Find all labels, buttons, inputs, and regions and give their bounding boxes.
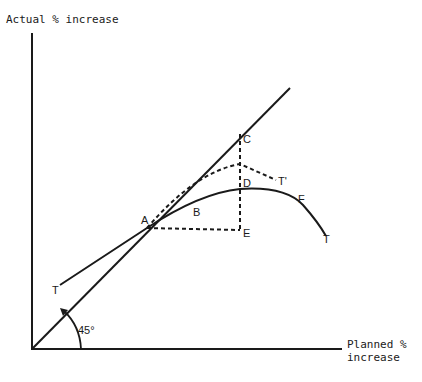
- point-label-F: F: [298, 193, 305, 205]
- diagram-canvas: Actual % increase Planned % increase A B…: [0, 0, 422, 382]
- point-label-A: A: [141, 214, 149, 226]
- point-label-C: C: [243, 133, 251, 145]
- point-label-D: D: [243, 177, 251, 189]
- dashed-horizontal-AE: [147, 228, 240, 230]
- diagram-svg: Actual % increase Planned % increase A B…: [0, 0, 422, 382]
- x-axis-label-line1: Planned %: [347, 338, 407, 351]
- point-label-T-end: T: [323, 233, 330, 245]
- point-label-T-prime: T': [278, 175, 287, 187]
- point-label-T-start: T: [52, 284, 59, 296]
- actual-curve-T: [60, 189, 326, 285]
- point-label-E: E: [243, 227, 250, 239]
- y-axis-label: Actual % increase: [6, 13, 119, 26]
- x-axis-label-line2: increase: [347, 351, 400, 364]
- angle-label: 45°: [78, 324, 95, 336]
- point-label-B: B: [193, 206, 200, 218]
